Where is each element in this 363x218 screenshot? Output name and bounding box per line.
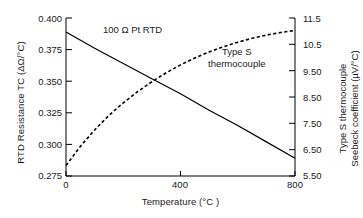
plot-canvas xyxy=(0,0,363,218)
series-line-thermocouple xyxy=(66,30,295,165)
x-ticks xyxy=(66,171,295,176)
chart-figure: RTD Resistance TC (ΔΩ/°C) Type S thermoc… xyxy=(0,0,363,218)
axis-frame xyxy=(66,18,295,176)
y-right-ticks xyxy=(289,18,295,176)
series-line-rtd xyxy=(66,32,295,158)
y-left-ticks xyxy=(66,18,72,176)
